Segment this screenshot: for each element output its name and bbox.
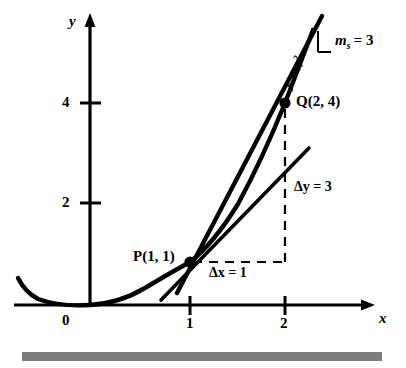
point-label-p: P(1, 1) xyxy=(133,249,175,264)
secant-slope-label: ms= 3 xyxy=(335,33,373,51)
y-axis-label: y xyxy=(69,14,76,29)
y-tick-label-4: 4 xyxy=(62,95,70,110)
graph-figure xyxy=(0,0,406,368)
slope-triangle xyxy=(318,31,331,52)
secant-slope-symbol: m xyxy=(335,32,347,48)
x-axis-label: x xyxy=(379,311,387,326)
y-axis xyxy=(85,13,96,305)
delta-y-label: Δy = 3 xyxy=(294,180,332,194)
secant-slope-value: = 3 xyxy=(354,32,374,48)
origin-label: 0 xyxy=(62,313,70,328)
parabola-curve xyxy=(18,30,313,305)
delta-x-label: Δx = 1 xyxy=(209,266,247,280)
bottom-divider-bar xyxy=(22,352,382,361)
x-tick-label-1: 1 xyxy=(186,316,194,331)
y-tick-label-2: 2 xyxy=(62,195,70,210)
point-marker-q xyxy=(279,97,290,108)
point-label-q: Q(2, 4) xyxy=(296,94,340,109)
x-tick-label-2: 2 xyxy=(280,316,288,331)
secant-slope-subscript: s xyxy=(347,40,351,51)
point-marker-p xyxy=(184,256,195,267)
